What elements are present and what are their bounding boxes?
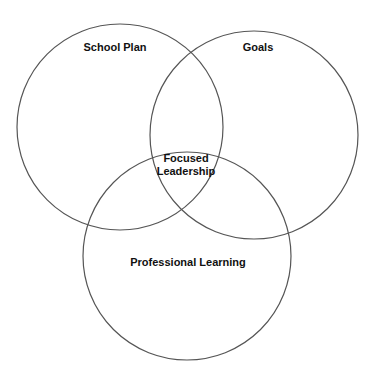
- circle-goals: [150, 31, 358, 239]
- label-school-plan: School Plan: [80, 40, 150, 54]
- circle-school-plan: [17, 24, 223, 230]
- label-leadership: Leadership: [150, 164, 222, 178]
- label-focused: Focused: [150, 151, 222, 165]
- label-professional-learning: Professional Learning: [118, 255, 258, 269]
- label-goals: Goals: [238, 40, 278, 54]
- venn-diagram: [0, 0, 374, 388]
